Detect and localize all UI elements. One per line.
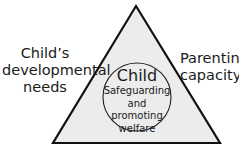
left-label-line3: needs (2, 79, 88, 96)
center-subtitle-line2: and promoting (103, 98, 171, 123)
left-label-line2: developmental (2, 62, 88, 79)
parenting-capacity-label: Parenting capacity (180, 50, 239, 84)
left-label-line1: Child’s (2, 45, 88, 62)
center-label: Child Safeguarding and promoting welfare (103, 66, 171, 135)
right-label-line2: capacity (180, 67, 239, 84)
center-title: Child (103, 66, 171, 85)
right-label-line1: Parenting (180, 50, 239, 67)
childs-developmental-needs-label: Child’s developmental needs (2, 45, 88, 96)
center-subtitle-line3: welfare (103, 123, 171, 136)
center-subtitle-line1: Safeguarding (103, 85, 171, 98)
